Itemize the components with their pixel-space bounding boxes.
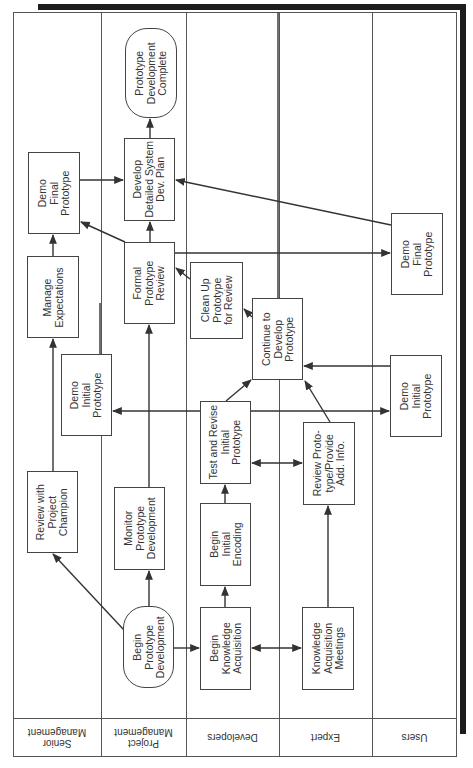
node-label: Demo Initial Prototype bbox=[399, 374, 434, 419]
node-label: Knowledge Acquisition Meetings bbox=[311, 623, 346, 675]
frame-shadow-top bbox=[38, 4, 466, 10]
lane-label-expert: Expert bbox=[279, 719, 372, 757]
node-demo-initial-prototype-users: Demo Initial Prototype bbox=[390, 355, 442, 437]
node-label: Begin Initial Encoding bbox=[208, 523, 243, 567]
frame-shadow-right bbox=[460, 4, 466, 734]
node-label: Continue to Develop Prototype bbox=[260, 312, 295, 366]
node-knowledge-acquisition-meetings: Knowledge Acquisition Meetings bbox=[302, 607, 354, 690]
node-label: Review Proto- type/Provide Add. Info. bbox=[312, 431, 347, 497]
lane-label-users: Users bbox=[372, 719, 457, 757]
node-label: Prototype Development Complete bbox=[134, 42, 169, 104]
lane-label-senior-management: Senior Management bbox=[13, 719, 101, 757]
node-manage-expectations: Manage Expectations bbox=[27, 256, 79, 338]
node-demo-final-prototype-senior: Demo Final Prototype bbox=[28, 152, 80, 234]
lane-label-project-management: Project Management bbox=[101, 719, 186, 757]
node-label: Monitor Prototype Development bbox=[122, 498, 157, 560]
node-label: Clean Up Prototype for Review bbox=[199, 276, 234, 326]
node-label: Demo Initial Prototype bbox=[69, 373, 104, 418]
node-begin-initial-encoding: Begin Initial Encoding bbox=[200, 503, 251, 586]
node-demo-final-prototype-users: Demo Final Prototype bbox=[391, 213, 443, 295]
node-label: Test and Revise Initial Prototype bbox=[208, 405, 243, 480]
node-label: Review with Project Champion bbox=[35, 484, 70, 540]
lane-divider bbox=[279, 12, 280, 757]
node-label: Develop Detailed System Dev. Plan bbox=[132, 141, 167, 217]
lane-divider bbox=[372, 12, 373, 757]
node-label: Formal Prototype Review bbox=[132, 261, 167, 306]
node-review-prototype-provide-info: Review Proto- type/Provide Add. Info. bbox=[303, 422, 355, 505]
node-label: Demo Final Prototype bbox=[37, 171, 72, 216]
lane-label-developers: Developers bbox=[186, 719, 279, 757]
node-label: Begin Knowledge Acquisition bbox=[208, 623, 243, 675]
node-clean-up-prototype: Clean Up Prototype for Review bbox=[190, 262, 243, 339]
node-monitor-prototype-development: Monitor Prototype Development bbox=[114, 487, 165, 570]
node-test-and-revise-initial-prototype: Test and Revise Initial Prototype bbox=[200, 401, 251, 484]
node-prototype-development-complete: Prototype Development Complete bbox=[125, 28, 177, 118]
node-develop-detailed-system-dev-plan: Develop Detailed System Dev. Plan bbox=[124, 138, 175, 221]
node-formal-prototype-review: Formal Prototype Review bbox=[124, 242, 175, 324]
node-label: Manage Expectations bbox=[42, 267, 65, 327]
node-demo-initial-prototype-senior: Demo Initial Prototype bbox=[61, 354, 112, 436]
node-label: Begin Prototype Development bbox=[131, 616, 166, 678]
node-begin-knowledge-acquisition: Begin Knowledge Acquisition bbox=[200, 607, 251, 690]
node-label: Demo Final Prototype bbox=[400, 232, 435, 277]
node-continue-to-develop-prototype: Continue to Develop Prototype bbox=[252, 298, 303, 380]
node-begin-prototype-development: Begin Prototype Development bbox=[123, 606, 174, 688]
lane-divider bbox=[186, 12, 187, 757]
node-review-with-project-champion: Review with Project Champion bbox=[27, 471, 78, 553]
